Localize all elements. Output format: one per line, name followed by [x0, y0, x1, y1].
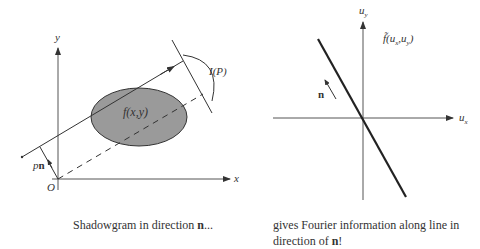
projection-profile-curve	[183, 55, 214, 101]
right-caption: gives Fourier information along line in …	[273, 217, 473, 249]
right-diagram: uy ux f̃(ux,uy) n	[273, 4, 469, 200]
origin-label: O	[47, 181, 55, 193]
ray-arrow-icon	[160, 66, 174, 74]
ray-start-dot	[21, 156, 23, 158]
object-label: f(x,y)	[123, 105, 148, 119]
left-diagram: y x O f(x,y) I(P) pn	[21, 31, 239, 193]
left-caption-bold: n	[197, 218, 204, 232]
left-caption: Shadowgram in direction n...	[73, 217, 213, 233]
left-caption-suffix: ...	[204, 218, 213, 232]
ux-axis-label: ux	[459, 111, 469, 126]
right-caption-line1: gives Fourier information along line in	[273, 217, 473, 233]
left-caption-text: Shadowgram in direction	[73, 218, 197, 232]
projection-label: I(P)	[208, 65, 227, 78]
x-axis-label: x	[233, 172, 239, 184]
y-axis-label: y	[54, 31, 60, 43]
direction-n-arrow-icon	[325, 80, 336, 99]
direction-n-label: n	[318, 88, 324, 100]
transform-label: f̃(ux,uy)	[383, 32, 414, 47]
normal-arrow-icon	[48, 160, 52, 168]
right-caption-line2: direction of n!	[273, 233, 473, 249]
right-caption-suffix: !	[338, 234, 342, 248]
figure-canvas: y x O f(x,y) I(P) pn uy ux f̃(ux,uy) n	[0, 0, 480, 249]
right-caption-line2-text: direction of	[273, 234, 332, 248]
offset-label: pn	[32, 159, 45, 171]
uy-axis-label: uy	[359, 4, 369, 19]
